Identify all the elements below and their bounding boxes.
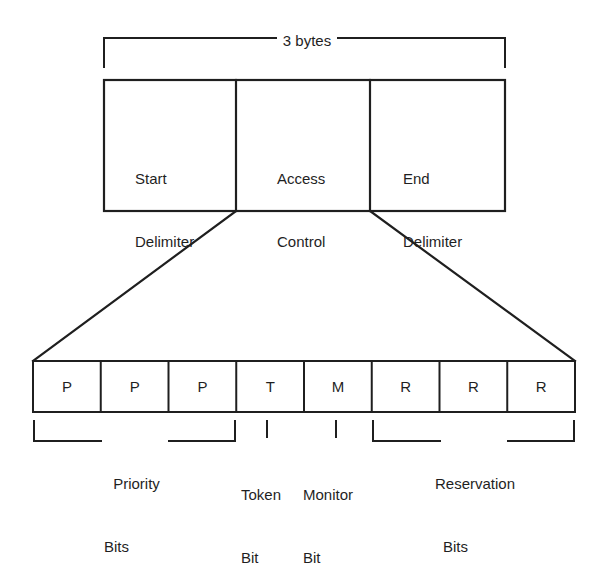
bit-cell-label-4: M [304,376,372,397]
field-label-access-control-line1: Access [277,168,325,189]
bit-group-label-monitor-bit-line2: Bit [303,547,371,567]
bit-group-label-reservation-bits-line2: Bits [443,536,507,557]
field-label-start-delimiter: Start Delimiter [135,126,194,294]
bit-cell-label-3: T [236,376,304,397]
field-label-access-control: Access Control [277,126,325,294]
bit-group-label-monitor-bit: Monitor Bit [303,442,371,567]
bit-group-label-reservation-bits-line1: Reservation [430,473,520,494]
leader-line-right [370,211,575,361]
bit-cell-label-1: P [101,376,169,397]
bit-cell-label-7: R [507,376,575,397]
bit-cell-label-2: P [169,376,237,397]
field-label-end-delimiter: End Delimiter [403,126,462,294]
bit-group-label-reservation-bits: Reservation Bits [443,431,507,567]
field-label-start-delimiter-line2: Delimiter [135,231,194,252]
bit-group-label-priority-bits-line2: Bits [104,536,169,557]
bit-group-label-token-bit-line2: Bit [241,547,296,567]
bit-group-label-priority-bits-line1: Priority [104,473,169,494]
field-label-access-control-line2: Control [277,231,325,252]
bit-group-label-priority-bits: Priority Bits [104,431,169,567]
bit-cell-label-5: R [372,376,440,397]
bit-group-label-monitor-bit-line1: Monitor [303,484,371,505]
field-label-end-delimiter-line1: End [403,168,462,189]
bit-cell-label-6: R [440,376,508,397]
field-label-start-delimiter-line1: Start [135,168,194,189]
bit-cell-label-0: P [33,376,101,397]
span-label-3-bytes: 3 bytes [276,30,338,51]
field-label-end-delimiter-line2: Delimiter [403,231,462,252]
bit-group-label-token-bit-line1: Token [241,484,296,505]
bit-group-label-token-bit: Token Bit [241,442,296,567]
